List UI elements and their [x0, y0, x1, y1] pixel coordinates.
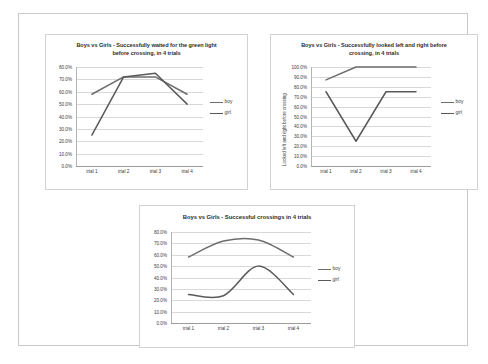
chart-title-line-1: Boys vs Girls - Successfully looked left… [301, 42, 447, 48]
y-tick-label: 20.0% [59, 139, 72, 144]
chart-legend: boy girl [318, 264, 340, 286]
y-tick-label: 20.0% [154, 298, 167, 303]
chart-legend: boy girl [210, 97, 232, 119]
chart-title: Boys vs Girls - Successful crossings in … [140, 206, 354, 222]
x-tick-label: trial 1 [183, 326, 194, 331]
series-lines [171, 232, 311, 323]
legend-label-boy: boy [225, 100, 233, 105]
y-tick-labels: 80.0%70.0%60.0%50.0%40.0%30.0%20.0%10.0%… [50, 67, 72, 166]
y-tick-label: 0.0% [157, 321, 167, 326]
legend-swatch-boy-icon [441, 102, 454, 103]
x-axis-line [171, 323, 311, 324]
series-line-boy [189, 238, 294, 257]
legend-item-boy: boy [210, 97, 232, 108]
chart-title-line-2: crossing, in 4 trials [349, 50, 399, 56]
chart-title: Boys vs Girls - Successfully looked left… [271, 35, 477, 57]
y-tick-label: 40.0% [59, 114, 72, 119]
legend-swatch-girl-icon [441, 113, 454, 114]
y-tick-label: 0.0% [297, 164, 307, 169]
legend-swatch-girl-icon [318, 280, 331, 281]
legend-label-girl: girl [225, 111, 232, 116]
document-page-frame: Boys vs Girls - Successfully waited for … [18, 13, 468, 346]
legend-swatch-girl-icon [210, 113, 223, 114]
y-tick-label: 70.0% [294, 94, 307, 99]
plot-area [171, 232, 311, 323]
x-tick-label: trial 3 [150, 169, 161, 174]
y-tick-label: 80.0% [294, 84, 307, 89]
chart-legend: boy girl [441, 97, 463, 119]
y-tick-label: 60.0% [294, 104, 307, 109]
legend-label-girl: girl [333, 278, 340, 283]
y-tick-label: 10.0% [294, 154, 307, 159]
series-line-boy [92, 77, 187, 94]
legend-item-girl: girl [210, 108, 232, 119]
chart-panel-looked-left-right: Boys vs Girls - Successfully looked left… [270, 34, 478, 190]
y-tick-label: 70.0% [59, 77, 72, 82]
x-tick-label: trial 4 [288, 326, 299, 331]
legend-item-girl: girl [441, 108, 463, 119]
y-tick-label: 20.0% [294, 144, 307, 149]
series-line-boy [326, 67, 416, 80]
series-lines [76, 67, 203, 166]
plot-area [311, 67, 431, 166]
y-tick-label: 50.0% [59, 102, 72, 107]
legend-label-boy: boy [456, 100, 464, 105]
series-line-girl [189, 266, 294, 297]
y-tick-label: 0.0% [62, 164, 72, 169]
y-tick-label: 30.0% [59, 126, 72, 131]
y-tick-label: 80.0% [59, 65, 72, 70]
y-tick-label: 50.0% [154, 264, 167, 269]
x-tick-label: trial 2 [350, 169, 361, 174]
series-line-girl [92, 73, 187, 135]
x-tick-label: trial 3 [253, 326, 264, 331]
y-tick-labels: 100.0%90.0%80.0%70.0%60.0%50.0%40.0%30.0… [285, 67, 307, 166]
y-tick-label: 30.0% [294, 134, 307, 139]
series-line-girl [326, 92, 416, 142]
chart-title-line-2: before crossing, in 4 trials [112, 50, 180, 56]
chart-title-line-1: Boys vs Girls - Successfully waited for … [76, 42, 216, 48]
y-tick-label: 100.0% [291, 65, 307, 70]
x-tick-label: trial 2 [218, 326, 229, 331]
legend-item-girl: girl [318, 275, 340, 286]
chart-panel-waited-green-light: Boys vs Girls - Successfully waited for … [45, 34, 248, 190]
legend-label-boy: boy [333, 267, 341, 272]
x-tick-label: trial 1 [320, 169, 331, 174]
x-tick-label: trial 1 [86, 169, 97, 174]
y-tick-label: 60.0% [154, 252, 167, 257]
legend-swatch-boy-icon [318, 269, 331, 270]
series-lines [311, 67, 431, 166]
y-tick-label: 90.0% [294, 74, 307, 79]
y-tick-label: 80.0% [154, 230, 167, 235]
x-axis-line [76, 166, 203, 167]
x-tick-label: trial 4 [410, 169, 421, 174]
legend-swatch-boy-icon [210, 102, 223, 103]
y-tick-label: 30.0% [154, 286, 167, 291]
y-tick-label: 50.0% [294, 114, 307, 119]
x-axis-line [311, 166, 431, 167]
x-tick-label: trial 4 [181, 169, 192, 174]
chart-panel-successful-crossings: Boys vs Girls - Successful crossings in … [139, 205, 355, 348]
y-tick-labels: 80.0%70.0%60.0%50.0%40.0%30.0%20.0%10.0%… [145, 232, 167, 323]
legend-item-boy: boy [441, 97, 463, 108]
y-tick-label: 70.0% [154, 241, 167, 246]
y-tick-label: 10.0% [59, 151, 72, 156]
legend-item-boy: boy [318, 264, 340, 275]
x-tick-label: trial 3 [380, 169, 391, 174]
chart-title-line-1: Boys vs Girls - Successful crossings in … [183, 214, 312, 220]
y-tick-label: 60.0% [59, 89, 72, 94]
y-tick-label: 40.0% [294, 124, 307, 129]
x-tick-label: trial 2 [118, 169, 129, 174]
y-tick-label: 40.0% [154, 275, 167, 280]
y-tick-label: 10.0% [154, 309, 167, 314]
legend-label-girl: girl [456, 111, 463, 116]
chart-title: Boys vs Girls - Successfully waited for … [46, 35, 247, 57]
plot-area [76, 67, 203, 166]
